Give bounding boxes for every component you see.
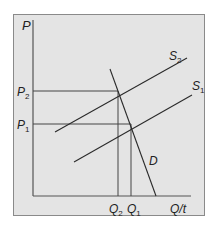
x-axis-label: Q/t bbox=[170, 202, 187, 216]
diagram-frame bbox=[14, 15, 205, 216]
supply-demand-diagram: P Q/t P2 P1 Q2 Q1 S2 S1 D bbox=[0, 0, 218, 232]
d-label: D bbox=[149, 154, 158, 168]
y-axis-label: P bbox=[22, 18, 31, 33]
